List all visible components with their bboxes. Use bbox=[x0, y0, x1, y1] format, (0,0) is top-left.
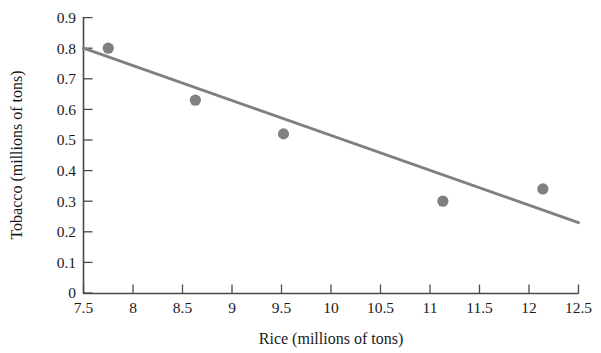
x-tick-label: 7.5 bbox=[74, 299, 94, 316]
data-point bbox=[190, 95, 201, 106]
data-point bbox=[537, 183, 548, 194]
x-axis-title: Rice (millions of tons) bbox=[259, 330, 403, 348]
y-tick-label: 0.5 bbox=[57, 131, 77, 148]
x-tick-label: 10.5 bbox=[367, 299, 394, 316]
scatter-plot-figure: 0.9 0.8 0.7 0.6 0.5 0.4 0.3 0.2 0.1 0 7.… bbox=[0, 0, 601, 353]
data-point bbox=[278, 128, 289, 139]
y-tick-label: 0.1 bbox=[57, 254, 76, 271]
x-tick-label: 9 bbox=[228, 299, 236, 316]
y-tick-label: 0.9 bbox=[57, 9, 77, 26]
y-tick-label: 0.7 bbox=[57, 70, 77, 87]
x-tick-label: 11.5 bbox=[466, 299, 493, 316]
x-tick-label: 8.5 bbox=[173, 299, 193, 316]
x-tick-label: 9.5 bbox=[272, 299, 292, 316]
data-point bbox=[437, 196, 448, 207]
x-tick-label: 8 bbox=[129, 299, 137, 316]
y-tick-label: 0.8 bbox=[57, 40, 77, 57]
y-tick-label: 0.6 bbox=[57, 101, 77, 118]
y-tick-label: 0.2 bbox=[57, 223, 76, 240]
x-tick-label: 10 bbox=[323, 299, 339, 316]
y-axis-title: Tobacco (millions of tons) bbox=[8, 70, 26, 239]
data-point bbox=[103, 43, 114, 54]
x-tick-label: 12.5 bbox=[565, 299, 592, 316]
x-tick-label: 12 bbox=[521, 299, 537, 316]
y-tick-label: 0.4 bbox=[57, 162, 77, 179]
x-tick-label: 11 bbox=[423, 299, 438, 316]
y-tick-label: 0.3 bbox=[57, 193, 77, 210]
chart-canvas: 0.9 0.8 0.7 0.6 0.5 0.4 0.3 0.2 0.1 0 7.… bbox=[0, 0, 601, 353]
